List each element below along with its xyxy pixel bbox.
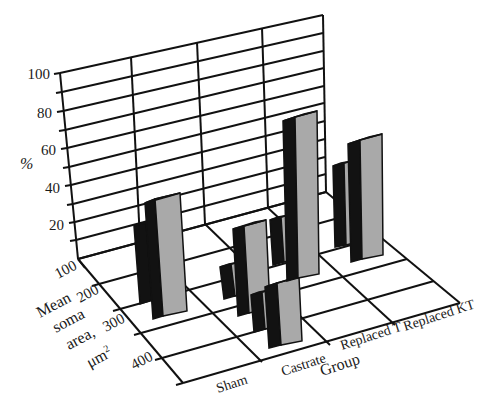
group-label-replaced-kt: Replaced KT: [401, 297, 477, 334]
3d-bar-chart: 100 80 60 40 20 % 100 200 300 400 Mean s…: [0, 0, 484, 403]
z-axis-title: %: [20, 155, 33, 172]
group-label-replaced-t: Replaced T: [338, 319, 404, 353]
z-tick-60: 60: [41, 142, 56, 158]
depth-tick-400: 400: [128, 348, 155, 373]
depth-axis-title: Mean soma area, μm2: [33, 289, 114, 372]
bar-replaced-kt-200: [348, 134, 383, 262]
group-axis-title: Group: [318, 350, 362, 380]
bar-sham-200: [145, 193, 187, 319]
bar-castrate-400: [265, 277, 302, 348]
z-tick-40: 40: [45, 180, 60, 196]
depth-tick-100: 100: [52, 257, 79, 282]
z-tick-100: 100: [28, 66, 51, 82]
depth-axis-title-line4: μm2: [83, 343, 115, 372]
group-label-sham: Sham: [214, 372, 249, 396]
z-tick-80: 80: [37, 105, 52, 121]
bar-replaced-t-200: [283, 111, 319, 281]
z-tick-20: 20: [49, 217, 64, 233]
